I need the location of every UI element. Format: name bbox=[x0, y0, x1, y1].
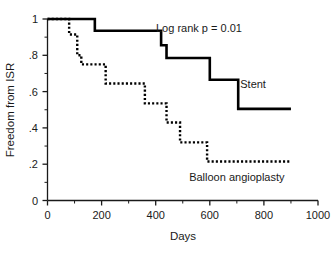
y-tick-label: 0 bbox=[32, 195, 38, 207]
y-tick-label: 1 bbox=[32, 13, 38, 25]
chart-canvas: 0.2.4.6.81 02004006008001000 Freedom fro… bbox=[0, 0, 336, 253]
series-curve-balloon-angioplasty bbox=[48, 19, 291, 161]
x-axis-ticks bbox=[48, 201, 319, 206]
y-axis-tick-labels: 0.2.4.6.81 bbox=[29, 13, 38, 207]
data-series bbox=[48, 19, 291, 161]
y-axis-title: Freedom from ISR bbox=[4, 63, 16, 158]
y-tick-label: .2 bbox=[29, 158, 38, 170]
x-axis-tick-labels: 02004006008001000 bbox=[44, 209, 330, 221]
chart-annotations: Log rank p = 0.01StentBalloon angioplast… bbox=[156, 22, 285, 183]
x-tick-label: 800 bbox=[255, 209, 273, 221]
y-tick-label: .8 bbox=[29, 49, 38, 61]
stent-label: Stent bbox=[240, 78, 266, 90]
x-axis-title: Days bbox=[170, 230, 196, 242]
kaplan-meier-figure: 0.2.4.6.81 02004006008001000 Freedom fro… bbox=[0, 0, 336, 253]
x-tick-label: 0 bbox=[44, 209, 50, 221]
x-tick-label: 400 bbox=[147, 209, 165, 221]
balloon-label: Balloon angioplasty bbox=[189, 171, 285, 183]
x-tick-label: 600 bbox=[201, 209, 219, 221]
y-axis-ticks bbox=[43, 19, 48, 201]
y-tick-label: .4 bbox=[29, 122, 38, 134]
x-tick-label: 200 bbox=[92, 209, 110, 221]
x-tick-label: 1000 bbox=[306, 209, 330, 221]
log-rank-p: Log rank p = 0.01 bbox=[156, 22, 242, 34]
y-tick-label: .6 bbox=[29, 86, 38, 98]
